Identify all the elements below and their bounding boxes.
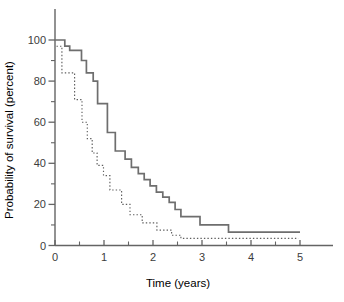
x-tick-label: 4 bbox=[248, 251, 254, 263]
y-tick-label: 80 bbox=[34, 75, 46, 87]
y-tick-label: 40 bbox=[34, 157, 46, 169]
y-tick-label: 0 bbox=[40, 240, 46, 252]
x-axis-tick-labels: 012345 bbox=[52, 251, 303, 263]
x-tick-label: 2 bbox=[150, 251, 156, 263]
y-tick-label: 100 bbox=[28, 34, 46, 46]
x-tick-label: 1 bbox=[101, 251, 107, 263]
y-axis-tick-labels: 020406080100 bbox=[28, 34, 46, 252]
y-tick-label: 20 bbox=[34, 198, 46, 210]
survival-curves bbox=[55, 40, 300, 238]
y-tick-label: 60 bbox=[34, 116, 46, 128]
x-tick-label: 5 bbox=[297, 251, 303, 263]
solid-survival-curve bbox=[55, 40, 300, 232]
x-axis-title: Time (years) bbox=[146, 277, 210, 289]
y-axis-title: Probability of survival (percent) bbox=[3, 61, 15, 219]
x-tick-label: 0 bbox=[52, 251, 58, 263]
axes bbox=[49, 9, 334, 246]
survival-chart-canvas: 020406080100 012345 Time (years) Probabi… bbox=[0, 0, 344, 302]
survival-chart-figure: 020406080100 012345 Time (years) Probabi… bbox=[0, 0, 344, 302]
x-tick-label: 3 bbox=[199, 251, 205, 263]
